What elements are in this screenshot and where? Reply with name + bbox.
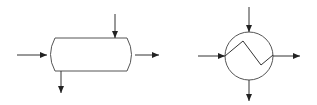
arrowhead-icon bbox=[112, 31, 118, 38]
heat-exchanger-outlet-arrow-2 bbox=[273, 53, 300, 59]
vessel-body bbox=[51, 38, 132, 71]
exchanger-shell bbox=[225, 32, 273, 80]
horizontal-vessel-inlet-arrow-1 bbox=[112, 14, 118, 38]
arrowhead-icon bbox=[58, 86, 64, 93]
heat-exchanger bbox=[198, 7, 300, 101]
process-diagram-canvas bbox=[0, 0, 317, 105]
horizontal-vessel-outlet-arrow-2 bbox=[135, 52, 159, 58]
horizontal-vessel bbox=[17, 14, 159, 93]
arrowhead-icon bbox=[152, 52, 159, 58]
arrowhead-icon bbox=[293, 53, 300, 59]
process-diagram bbox=[0, 0, 317, 105]
arrowhead-icon bbox=[246, 25, 252, 32]
heat-exchanger-outlet-arrow-3 bbox=[246, 80, 252, 101]
arrowhead-icon bbox=[40, 52, 47, 58]
horizontal-vessel-outlet-arrow-3 bbox=[58, 71, 64, 93]
heat-exchanger-inlet-arrow-1 bbox=[198, 53, 225, 59]
heat-exchanger-inlet-arrow-0 bbox=[246, 7, 252, 32]
arrowhead-icon bbox=[218, 53, 225, 59]
horizontal-vessel-inlet-arrow-0 bbox=[17, 52, 47, 58]
arrowhead-icon bbox=[246, 94, 252, 101]
